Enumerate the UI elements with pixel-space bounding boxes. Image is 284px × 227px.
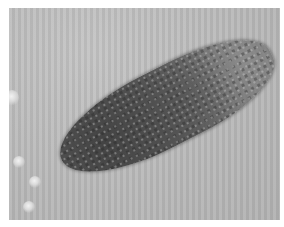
bubble: [29, 176, 41, 188]
bubble: [23, 201, 35, 213]
microscopy-image: [9, 8, 280, 220]
specimen-cluster: [44, 19, 280, 195]
bubble: [9, 90, 19, 106]
bubble: [13, 156, 25, 168]
granular-texture: [44, 19, 280, 195]
